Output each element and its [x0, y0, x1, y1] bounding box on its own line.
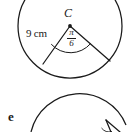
exercise-item-label-e: e: [8, 110, 14, 123]
next-figure-arc: [31, 94, 126, 132]
radius-line-left: [43, 26, 70, 64]
angle-denominator: 6: [67, 39, 76, 48]
center-label-c: C: [64, 7, 72, 19]
figure-page: C 9 cm π 6 e: [0, 0, 132, 132]
radius-length-label: 9 cm: [26, 28, 47, 39]
angle-numerator: π: [67, 28, 76, 37]
central-angle-label: π 6: [67, 28, 76, 49]
